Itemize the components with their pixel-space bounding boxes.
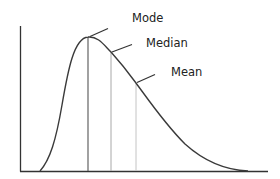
skewed-distribution-diagram: Mode Median Mean bbox=[0, 0, 280, 179]
distribution-curve bbox=[40, 37, 248, 171]
mean-leader-line bbox=[137, 75, 155, 83]
mean-label: Mean bbox=[171, 65, 202, 79]
median-label: Median bbox=[146, 36, 188, 50]
mode-label: Mode bbox=[132, 11, 163, 25]
median-leader-line bbox=[112, 45, 132, 53]
mode-leader-line bbox=[90, 29, 108, 37]
